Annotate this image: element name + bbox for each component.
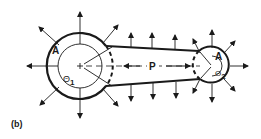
small-pulley-area-label: A [215, 51, 222, 62]
small-pulley [193, 30, 248, 102]
small-pulley-dashed-rim [193, 51, 200, 79]
small-pulley-angle-label: Θ2 [215, 69, 226, 81]
large-pulley [27, 12, 200, 118]
belt-pulley-diagram: A Θ1 P A [0, 0, 261, 139]
large-pulley-area-label: A [52, 45, 59, 56]
figure-caption: (b) [11, 119, 23, 129]
belt-force-label: P [149, 61, 156, 72]
belt-top-span [106, 46, 199, 51]
